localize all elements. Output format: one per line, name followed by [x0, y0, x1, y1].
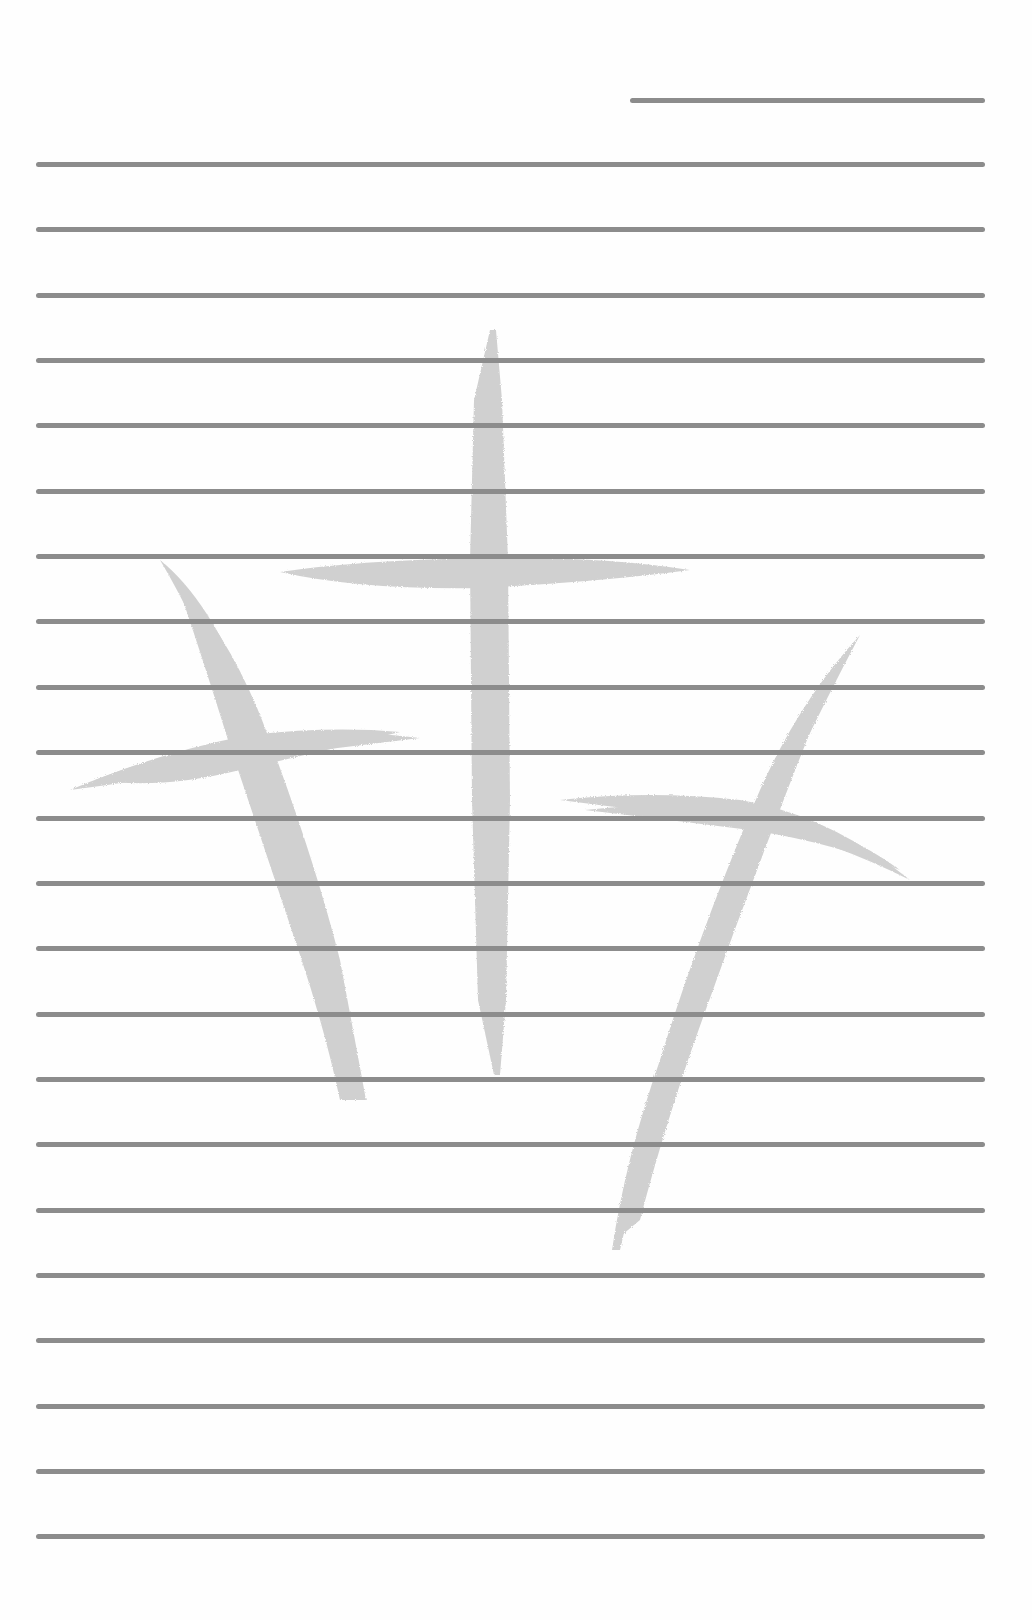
ruled-line — [36, 1404, 985, 1409]
ruled-line — [36, 1142, 985, 1147]
ruled-line — [36, 1208, 985, 1213]
ruled-line — [36, 619, 985, 624]
ruled-line — [36, 750, 985, 755]
ruled-line — [36, 1077, 985, 1082]
ruled-line — [36, 293, 985, 298]
center-cross-icon — [280, 330, 690, 1075]
ruled-line — [36, 685, 985, 690]
ruled-line — [36, 1338, 985, 1343]
ruled-line — [36, 227, 985, 232]
ruled-line — [36, 358, 985, 363]
header-line — [630, 98, 985, 103]
ruled-line — [36, 489, 985, 494]
ruled-line — [36, 1273, 985, 1278]
ruled-line — [36, 881, 985, 886]
ruled-line — [36, 1012, 985, 1017]
ruled-line — [36, 1534, 985, 1539]
ruled-line — [36, 946, 985, 951]
right-cross-icon — [560, 635, 910, 1250]
ruled-line — [36, 816, 985, 821]
crosses-watermark — [0, 0, 1032, 1620]
ruled-line — [36, 423, 985, 428]
lined-page — [0, 0, 1032, 1620]
left-cross-icon — [70, 560, 420, 1100]
ruled-line — [36, 1469, 985, 1474]
ruled-line — [36, 554, 985, 559]
ruled-line — [36, 162, 985, 167]
